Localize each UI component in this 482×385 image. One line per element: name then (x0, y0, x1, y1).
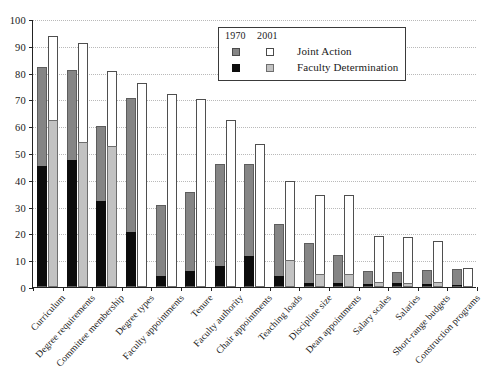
bar-segment-faculty-determination (156, 276, 166, 287)
legend-swatch-faculty-determination-2001 (266, 64, 274, 72)
bar-segment-joint-action (422, 270, 432, 285)
legend-swatch-joint-action-1970 (232, 48, 240, 56)
bar-segment-faculty-determination (374, 282, 384, 287)
bar-segment-joint-action (167, 94, 177, 287)
bar-1970[interactable] (244, 164, 254, 287)
bar-segment-faculty-determination (315, 274, 325, 287)
legend-swatch-cell-1970 (225, 48, 257, 56)
bar-group[interactable] (151, 20, 181, 287)
legend-label-faculty-determination: Faculty Determination (297, 62, 398, 74)
legend-header-2001: 2001 (257, 31, 297, 42)
bar-segment-faculty-determination (67, 160, 77, 287)
bar-group[interactable] (418, 20, 448, 287)
y-axis-tick-label: 60 (15, 122, 26, 133)
bar-segment-joint-action (315, 195, 325, 274)
bar-segment-joint-action (107, 71, 117, 146)
bar-segment-joint-action (37, 67, 47, 166)
bar-segment-faculty-determination (107, 146, 117, 287)
bar-2001[interactable] (374, 236, 384, 287)
y-axis-tick-label: 10 (15, 256, 26, 267)
bar-1970[interactable] (37, 67, 47, 287)
bar-group[interactable] (122, 20, 152, 287)
bar-1970[interactable] (126, 98, 136, 287)
legend-swatch-cell-2001 (257, 64, 297, 72)
y-axis-tick-label: 70 (15, 95, 26, 106)
bar-segment-joint-action (48, 36, 58, 119)
bar-group[interactable] (92, 20, 122, 287)
bar-segment-faculty-determination (48, 120, 58, 288)
bar-group[interactable] (447, 20, 477, 287)
bar-1970[interactable] (363, 271, 373, 287)
bar-2001[interactable] (48, 36, 58, 287)
bar-group[interactable] (33, 20, 63, 287)
bar-2001[interactable] (226, 120, 236, 288)
bar-1970[interactable] (156, 205, 166, 287)
bar-1970[interactable] (96, 126, 106, 287)
x-axis-labels: CurriculumDegree requirementsCommittee m… (32, 288, 476, 385)
bar-1970[interactable] (392, 272, 402, 287)
bar-segment-faculty-determination (78, 142, 88, 287)
bar-2001[interactable] (285, 181, 295, 287)
bar-segment-joint-action (333, 255, 343, 283)
bar-1970[interactable] (274, 224, 284, 287)
bar-1970[interactable] (67, 70, 77, 287)
legend-swatch-cell-1970 (225, 64, 257, 72)
legend-row-faculty-determination: Faculty Determination (225, 60, 398, 76)
bar-segment-joint-action (344, 195, 354, 274)
bar-2001[interactable] (315, 195, 325, 287)
bar-group[interactable] (181, 20, 211, 287)
y-axis-tick-label: 0 (21, 283, 26, 294)
x-axis-category-label: Tenure (189, 292, 216, 319)
bar-segment-joint-action (285, 181, 295, 260)
bar-2001[interactable] (255, 144, 265, 287)
bar-segment-joint-action (78, 43, 88, 142)
bar-segment-joint-action (244, 164, 254, 256)
bar-2001[interactable] (463, 268, 473, 287)
y-axis-tick-label: 50 (15, 149, 26, 160)
legend-row-joint-action: Joint Action (225, 44, 398, 60)
bar-segment-faculty-determination (244, 256, 254, 287)
bar-segment-joint-action (304, 243, 314, 283)
bar-2001[interactable] (403, 237, 413, 287)
bar-group[interactable] (63, 20, 93, 287)
bar-segment-joint-action (215, 164, 225, 266)
bar-segment-joint-action (96, 126, 106, 201)
chart-legend: 1970 2001 Joint Action Faculty Determina… (218, 27, 406, 81)
bar-segment-joint-action (185, 192, 195, 271)
bar-2001[interactable] (107, 71, 117, 287)
x-tick-mark (477, 287, 478, 291)
bar-1970[interactable] (215, 164, 225, 287)
bar-segment-joint-action (255, 144, 265, 287)
bar-2001[interactable] (433, 241, 443, 287)
bar-segment-faculty-determination (403, 283, 413, 287)
bar-segment-joint-action (463, 268, 473, 287)
bar-1970[interactable] (185, 192, 195, 287)
bar-2001[interactable] (167, 94, 177, 287)
bar-segment-faculty-determination (96, 201, 106, 287)
bar-segment-joint-action (392, 272, 402, 283)
bar-segment-faculty-determination (215, 266, 225, 287)
bar-1970[interactable] (452, 269, 462, 287)
bar-segment-joint-action (274, 224, 284, 276)
bar-2001[interactable] (137, 83, 147, 287)
bar-segment-faculty-determination (333, 283, 343, 287)
y-axis-tick-label: 80 (15, 68, 26, 79)
legend-header-1970: 1970 (225, 31, 257, 42)
bar-segment-joint-action (67, 70, 77, 160)
bar-2001[interactable] (196, 99, 206, 287)
bar-segment-joint-action (374, 236, 384, 282)
bar-1970[interactable] (304, 243, 314, 287)
legend-swatch-joint-action-2001 (266, 48, 274, 56)
bar-1970[interactable] (422, 270, 432, 287)
bar-segment-faculty-determination (37, 166, 47, 287)
legend-swatch-cell-2001 (257, 48, 297, 56)
bar-segment-joint-action (196, 99, 206, 287)
y-axis-tick-label: 100 (10, 15, 26, 26)
bar-2001[interactable] (344, 195, 354, 287)
bar-segment-joint-action (403, 237, 413, 283)
bar-1970[interactable] (333, 255, 343, 287)
bar-segment-faculty-determination (422, 284, 432, 287)
y-axis-tick-label: 40 (15, 175, 26, 186)
y-axis-tick-label: 90 (15, 41, 26, 52)
bar-2001[interactable] (78, 43, 88, 287)
